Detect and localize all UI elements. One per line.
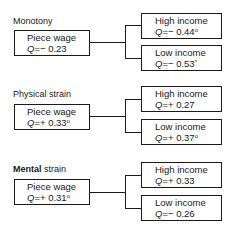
- connector-line: [90, 42, 125, 43]
- connector-line: [125, 208, 141, 209]
- section-title-physical-strain: Physical strain: [13, 89, 71, 99]
- branch-line: [125, 25, 126, 59]
- branch-line: [125, 175, 126, 209]
- high-income-box: High income Q=− 0.44o: [141, 13, 222, 39]
- section-title-mental-strain: Mental strain: [13, 164, 66, 174]
- q-value: Q=− 0.26: [155, 209, 221, 220]
- connector-line: [125, 99, 141, 100]
- low-income-box: Low income Q=− 0.53*: [141, 45, 222, 71]
- high-income-box: High income Q=+ 0.27: [141, 86, 222, 112]
- q-value: Q=+ 0.37o: [155, 133, 221, 144]
- connector-line: [125, 175, 141, 176]
- piece-wage-box: Piece wage Q=+ 0.31o: [14, 179, 90, 205]
- q-value: Q=+ 0.33o: [27, 118, 89, 129]
- piece-wage-box: Piece wage Q=− 0.23: [14, 30, 90, 56]
- q-value: Q=+ 0.33: [155, 176, 221, 187]
- low-income-box: Low income Q=− 0.26: [141, 195, 222, 221]
- connector-line: [125, 132, 141, 133]
- branch-line: [125, 99, 126, 133]
- connector-line: [125, 58, 141, 59]
- connector-line: [90, 192, 125, 193]
- high-income-box: High income Q=+ 0.33: [141, 162, 222, 188]
- q-value: Q=− 0.23: [27, 44, 89, 55]
- q-value: Q=− 0.44o: [155, 27, 221, 38]
- q-value: Q=− 0.53*: [155, 59, 221, 70]
- q-value: Q=+ 0.27: [155, 100, 221, 111]
- q-value: Q=+ 0.31o: [27, 193, 89, 204]
- connector-line: [125, 25, 141, 26]
- connector-line: [90, 116, 125, 117]
- section-title-monotony: Monotony: [13, 16, 53, 26]
- low-income-box: Low income Q=+ 0.37o: [141, 119, 222, 145]
- piece-wage-box: Piece wage Q=+ 0.33o: [14, 104, 90, 130]
